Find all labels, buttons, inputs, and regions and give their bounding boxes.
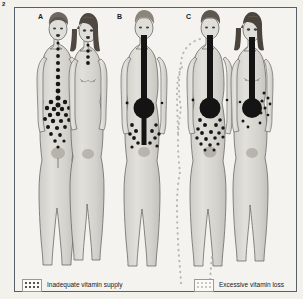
panel-c-illustration [177,10,273,285]
dotted-light-swatch-icon [194,279,214,292]
panel-label-a: A [38,13,43,20]
figure-artwork [14,7,297,292]
panel-b-figure [121,10,167,266]
figure-legend: Inadequate vitamin supply Excessive vita… [22,277,284,293]
panel-a-female-figure [69,13,107,260]
figure-root: 2 [0,0,303,299]
figure-number: 2 [2,1,5,7]
panel-b-illustration [121,10,167,266]
panel-a-illustration [37,12,107,265]
legend-item-inadequate-supply: Inadequate vitamin supply [22,279,123,292]
panel-label-b: B [117,13,122,20]
legend-label-inadequate-supply: Inadequate vitamin supply [47,282,123,289]
panel-label-c: C [186,13,191,20]
panel-c-female-figure [231,12,273,261]
panel-c-male-figure [177,10,233,285]
legend-label-excessive-loss: Excessive vitamin loss [219,282,284,289]
dotted-dark-swatch-icon [22,279,42,292]
legend-item-excessive-loss: Excessive vitamin loss [194,279,284,292]
